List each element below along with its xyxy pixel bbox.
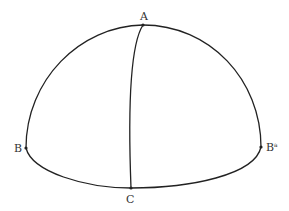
point-b bbox=[24, 146, 27, 149]
label-b-prime: Ba bbox=[266, 141, 278, 154]
diagram-svg: A B Ba C bbox=[0, 0, 289, 211]
point-a bbox=[141, 23, 144, 26]
label-b: B bbox=[14, 142, 22, 155]
outer-arc bbox=[26, 25, 261, 148]
label-a: A bbox=[139, 10, 149, 23]
label-c: C bbox=[126, 193, 134, 206]
point-c bbox=[129, 186, 132, 189]
base-arc bbox=[26, 147, 261, 188]
point-b-prime bbox=[259, 145, 262, 148]
hemisphere-diagram: A B Ba C bbox=[0, 0, 289, 211]
meridian bbox=[130, 25, 143, 188]
